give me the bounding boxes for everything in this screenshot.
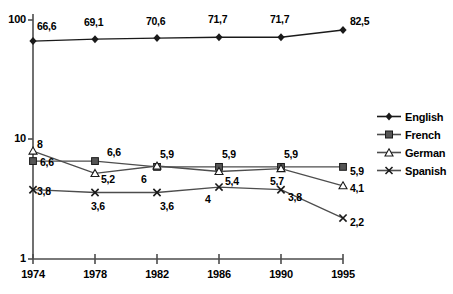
data-label-french-1990: 5,9 (284, 148, 298, 160)
data-label-english-1978: 69,1 (84, 16, 103, 28)
data-label-french-1982: 5,9 (160, 148, 174, 160)
data-label-french-1978: 6,6 (107, 146, 121, 158)
series-english (29, 26, 346, 45)
data-label-spanish-1995: 2,2 (350, 216, 364, 228)
data-label-german-1995: 4,1 (350, 182, 364, 194)
data-label-german-1974: 8 (37, 138, 43, 150)
legend-label-french: French (405, 129, 440, 141)
legend-marker-filled-diamond-icon (376, 110, 402, 123)
data-label-spanish-1986: 4 (205, 193, 211, 205)
data-label-spanish-1978: 3,6 (91, 200, 105, 212)
legend-label-spanish: Spanish (405, 165, 446, 177)
data-label-spanish-1982: 3,6 (160, 200, 174, 212)
data-label-english-1995: 82,5 (350, 15, 369, 27)
data-label-english-1986: 71,7 (208, 13, 227, 25)
y-axis-label-10: 10 (2, 132, 26, 144)
x-axis-label-1974: 1974 (8, 268, 58, 280)
data-label-spanish-1990: 3,8 (288, 191, 302, 203)
data-label-german-1990: 5,7 (270, 175, 284, 187)
data-label-french-1986: 5,9 (222, 148, 236, 160)
legend-label-english: English (405, 111, 443, 123)
data-label-german-1986: 5,4 (225, 175, 239, 187)
line-chart: 100 10 1 1974 1978 1982 1986 1990 1995 6… (0, 0, 453, 294)
data-label-english-1982: 70,6 (146, 15, 165, 27)
data-label-french-1974: 6,6 (40, 156, 54, 168)
y-axis-label-100: 100 (2, 13, 26, 25)
x-axis-label-1978: 1978 (70, 268, 120, 280)
data-label-german-1978: 5,2 (101, 173, 115, 185)
x-axis-label-1986: 1986 (194, 268, 244, 280)
x-axis-label-1995: 1995 (318, 268, 368, 280)
legend-marker-open-triangle-icon (376, 146, 402, 159)
legend-item-spanish[interactable]: Spanish (376, 164, 446, 177)
chart-legend: English French German Spanish (376, 110, 446, 177)
data-label-german-1982: 6 (141, 173, 147, 185)
data-label-english-1990: 71,7 (270, 13, 289, 25)
legend-label-german: German (405, 147, 445, 159)
axis-group (28, 14, 343, 264)
legend-marker-cross-x-icon (376, 164, 402, 177)
legend-item-german[interactable]: German (376, 146, 446, 159)
y-axis-label-1: 1 (2, 252, 26, 264)
data-label-spanish-1974: 3,8 (37, 185, 51, 197)
x-axis-label-1990: 1990 (256, 268, 306, 280)
legend-marker-filled-square-icon (376, 128, 402, 141)
data-label-english-1974: 66,6 (37, 20, 56, 32)
x-axis-label-1982: 1982 (132, 268, 182, 280)
series-german (29, 147, 347, 189)
data-label-french-1995: 5,9 (350, 165, 364, 177)
legend-item-english[interactable]: English (376, 110, 446, 123)
legend-item-french[interactable]: French (376, 128, 446, 141)
